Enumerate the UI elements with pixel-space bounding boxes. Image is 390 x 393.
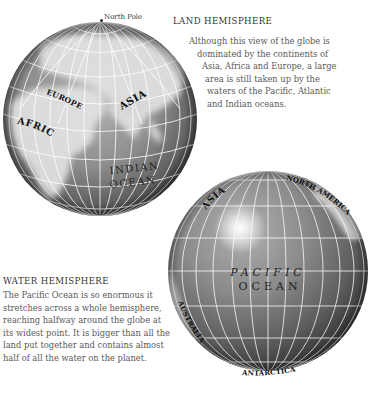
water-description-line: land put together and contains almost	[3, 339, 164, 351]
land-description-line: dominated by the continents of	[197, 48, 328, 60]
pacific-ocean-label-line1: PACIFIC	[229, 266, 306, 279]
land-description-line: Although this view of the globe is	[189, 35, 330, 47]
water-description-line: half of all the water on the planet.	[3, 352, 147, 364]
water-description-line: stretches across a whole hemisphere,	[3, 302, 162, 314]
land-hemisphere-heading: LAND HEMISPHERE	[173, 16, 272, 26]
land-description-line: area is still taken up by the	[205, 73, 320, 85]
water-hemisphere-globe: ASIA NORTH AMERICA AUSTRALIA ANTARCTICA …	[164, 166, 374, 378]
water-hemisphere-heading: WATER HEMISPHERE	[3, 276, 109, 286]
north-pole-marker	[100, 19, 103, 22]
land-description-line: waters of the Pacific, Atlantic	[207, 85, 331, 97]
water-description-line: its widest point. It is bigger than all …	[3, 327, 170, 339]
water-description-line: The Pacific Ocean is so enormous it	[3, 289, 153, 301]
land-description-line: Asia, Africa and Europe, a large	[202, 60, 336, 72]
pacific-ocean-label-line2: OCEAN	[238, 280, 301, 293]
land-description-line: and Indian oceans.	[207, 98, 287, 110]
water-description-line: reaching halfway around the globe at	[3, 314, 161, 326]
north-pole-label: North Pole	[104, 13, 142, 21]
